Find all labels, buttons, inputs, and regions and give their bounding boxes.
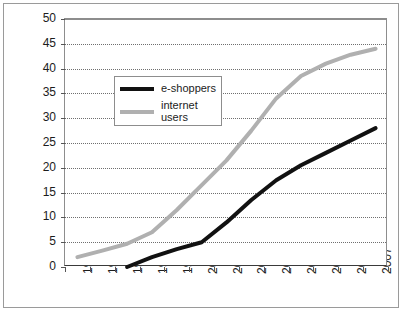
y-axis-tick-label: 50 <box>28 13 56 23</box>
legend-item-e-shoppers: e-shoppers <box>120 82 216 94</box>
legend-label-internet-line1: internet <box>161 99 198 111</box>
legend-swatch-e-shoppers <box>120 87 154 91</box>
y-axis-tick-label: 15 <box>28 187 56 197</box>
x-axis-tick <box>264 267 265 272</box>
x-axis-tick <box>140 267 141 272</box>
y-axis-tick-label: 10 <box>28 211 56 221</box>
x-axis-tick <box>363 267 364 272</box>
x-axis-tick <box>65 267 66 272</box>
x-axis-tick <box>239 267 240 272</box>
y-axis-tick-label: 35 <box>28 87 56 97</box>
plot-area: e-shoppers internetusers <box>64 18 387 266</box>
y-axis-tick-label: 20 <box>28 162 56 172</box>
y-axis-tick-label: 30 <box>28 112 56 122</box>
y-axis-tick-label: 25 <box>28 137 56 147</box>
chart-frame: 05101520253035404550 1995199619971998199… <box>3 3 399 308</box>
x-axis-tick <box>338 267 339 272</box>
y-axis-tick-label: 40 <box>28 63 56 73</box>
x-axis-tick <box>189 267 190 272</box>
y-axis-tick-label: 5 <box>28 236 56 246</box>
x-axis-tick <box>388 267 389 272</box>
y-axis-tick-label: 45 <box>28 38 56 48</box>
series-lines <box>65 19 388 267</box>
y-axis-tick-label: 0 <box>28 261 56 271</box>
x-axis-tick <box>90 267 91 272</box>
legend-label-internet-users: internetusers <box>161 99 198 123</box>
x-axis-tick <box>115 267 116 272</box>
x-axis-tick <box>289 267 290 272</box>
x-axis-tick <box>214 267 215 272</box>
line-e-shoppers <box>127 128 376 267</box>
legend-label-e-shoppers: e-shoppers <box>161 82 216 94</box>
x-axis-tick <box>164 267 165 272</box>
legend-item-internet-users: internetusers <box>120 99 198 123</box>
legend-swatch-internet-users <box>120 110 154 114</box>
chart-legend: e-shoppers internetusers <box>114 76 222 126</box>
x-axis-tick <box>313 267 314 272</box>
legend-label-internet-line2: users <box>161 111 188 123</box>
